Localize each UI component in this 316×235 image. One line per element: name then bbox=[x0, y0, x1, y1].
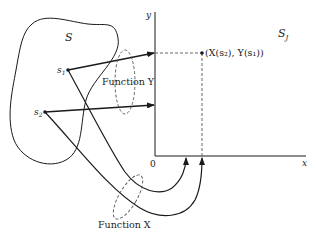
function-x-ellipse bbox=[108, 171, 149, 223]
function-x-label: Function X bbox=[98, 219, 151, 230]
point-s2-label: s2 bbox=[34, 107, 43, 118]
function-y-arrow-s1 bbox=[68, 53, 154, 70]
mapped-point-dot bbox=[200, 51, 204, 55]
function-x-curve-s1 bbox=[68, 70, 186, 192]
joint-mapping-diagram: S SJ s1 s2 Function Y Function X y x 0 (… bbox=[0, 0, 316, 235]
point-s1-label: s1 bbox=[57, 65, 65, 76]
y-axis-label: y bbox=[145, 10, 152, 20]
x-axis-label: x bbox=[302, 158, 307, 168]
origin-label: 0 bbox=[150, 159, 156, 169]
set-s-label: S bbox=[65, 31, 73, 44]
function-y-arrow-s2 bbox=[45, 105, 154, 112]
function-y-label: Function Y bbox=[102, 76, 155, 87]
function-x-curve-s2 bbox=[45, 112, 202, 216]
mapped-point-label: (X(s₂), Y(s₁)) bbox=[205, 47, 264, 58]
range-sj-label: SJ bbox=[278, 27, 290, 42]
